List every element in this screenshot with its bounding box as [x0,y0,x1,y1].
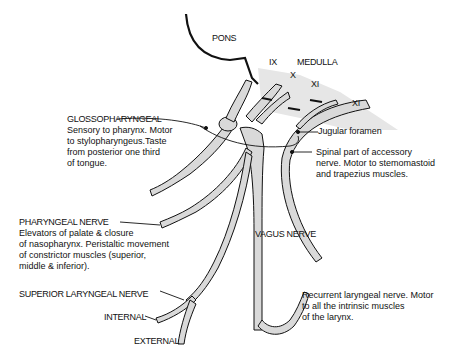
pharyngeal-line: Elevators of palate & closure [19,228,169,239]
glossopharyngeal-line: Sensory to pharynx. Motor [67,125,173,136]
glossopharyngeal-description: GLOSSOPHARYNGEAL Sensory to pharynx. Mot… [67,114,173,169]
label-ix: IX [269,57,277,68]
leader-internal [145,316,156,320]
pons-outline [186,14,258,84]
recurrent-line: of the larynx. [302,312,434,323]
label-pons: PONS [212,33,236,44]
accessory-line: and trapezius muscles. [316,169,435,180]
pharyngeal-line: of constrictor muscles (superior, [19,250,169,261]
glossopharyngeal-title: GLOSSOPHARYNGEAL [67,114,173,125]
accessory-line: nerve. Motor to stemomastoid [316,158,435,169]
accessory-line: Spinal part of accessory [316,147,435,158]
leader-superior-laryngeal [160,291,184,300]
pharyngeal-description: PHARYNGEAL NERVE Elevators of palate & c… [19,217,169,272]
pharyngeal-title: PHARYNGEAL NERVE [19,217,169,228]
label-vagus-nerve: VAGUS NERVE [255,229,316,240]
accessory-description: Spinal part of accessory nerve. Motor to… [316,147,435,180]
superior-laryngeal-branch [186,152,252,305]
label-medulla: MEDULLA [297,57,337,68]
label-superior-laryngeal: SUPERIOR LARYNGEAL NERVE [19,289,148,300]
pharyngeal-line: of nasopharynx. Peristaltic movement [19,239,169,250]
recurrent-line: Recurrent laryngeal nerve. Motor [302,290,434,301]
glossopharyngeal-line: of tongue. [67,158,173,169]
glossopharyngeal-line: from posterior one third [67,147,173,158]
label-x: X [290,70,296,81]
pharyngeal-line: middle & inferior). [19,261,169,272]
label-external: EXTERNAL [134,336,179,347]
label-xi-lower: XI [352,98,360,109]
label-jugular-foramen: Jugular foramen [318,126,382,137]
recurrent-line: to all the intrinsic muscles [302,301,434,312]
glossopharyngeal-line: to stylopharyngeus.Taste [67,136,173,147]
recurrent-laryngeal-description: Recurrent laryngeal nerve. Motor to all … [302,290,434,323]
label-internal: INTERNAL [104,312,146,323]
label-xi-upper: XI [311,79,319,90]
